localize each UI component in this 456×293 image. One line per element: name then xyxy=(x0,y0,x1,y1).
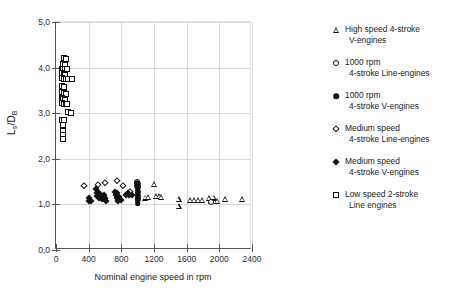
data-point xyxy=(97,192,104,199)
data-point xyxy=(135,187,141,193)
legend-label-line2: 4-stroke Line-engines xyxy=(345,68,456,79)
legend-entry[interactable]: Medium speed4-stroke V-engines xyxy=(332,156,456,177)
legend-entry[interactable]: Low speed 2-strokeLine engines xyxy=(332,189,456,210)
data-point xyxy=(60,96,66,102)
y-tick-mark xyxy=(52,68,60,69)
data-point xyxy=(60,132,66,138)
data-point xyxy=(123,191,130,198)
x-tick-mark xyxy=(121,244,122,252)
legend-label-line2: V-engines xyxy=(345,35,456,46)
data-point xyxy=(95,181,103,189)
legend-entry[interactable]: Medium speed4-stroke Line-engines xyxy=(332,123,456,144)
x-tick-label: 1200 xyxy=(145,254,164,264)
data-point xyxy=(211,195,217,201)
data-point xyxy=(61,71,67,77)
x-tick-mark xyxy=(219,244,220,252)
x-tick-label: 0 xyxy=(54,254,59,264)
data-point xyxy=(113,177,121,185)
y-axis-title: Ls/DB xyxy=(6,110,17,135)
data-point xyxy=(126,188,134,196)
legend-label-line1: Low speed 2-stroke xyxy=(345,189,418,199)
data-point xyxy=(59,83,65,89)
data-point xyxy=(93,189,100,196)
x-tick-label: 2400 xyxy=(243,254,262,264)
data-point xyxy=(191,197,197,203)
legend-label-line1: High speed 4-stroke xyxy=(345,24,420,34)
data-point xyxy=(135,181,141,187)
y-tick-mark xyxy=(52,159,60,160)
data-point xyxy=(60,122,66,128)
x-tick-mark xyxy=(187,244,188,252)
data-point xyxy=(59,70,65,76)
data-point xyxy=(208,198,214,204)
data-point xyxy=(101,194,108,201)
data-point xyxy=(69,76,75,82)
data-point xyxy=(158,194,164,200)
data-point xyxy=(206,195,212,201)
legend-label-line1: Medium speed xyxy=(345,156,400,166)
x-tick-label: 800 xyxy=(114,254,128,264)
legend-label-line2: Line engines xyxy=(345,200,456,211)
gridline-horizontal xyxy=(56,204,250,205)
circle-open-icon xyxy=(332,59,342,68)
data-point xyxy=(61,117,67,123)
y-tick-mark xyxy=(52,113,60,114)
y-tick-label: 0,0 xyxy=(38,245,50,255)
legend-entry[interactable]: High speed 4-strokeV-engines xyxy=(332,24,456,45)
data-point xyxy=(135,193,141,199)
data-point xyxy=(135,196,141,202)
data-point xyxy=(135,184,141,190)
x-tick-mark xyxy=(252,244,253,252)
data-point xyxy=(101,179,109,187)
data-point xyxy=(135,195,141,201)
data-point xyxy=(135,190,141,196)
gridline-vertical xyxy=(121,22,122,248)
data-point xyxy=(156,193,162,199)
legend-entry[interactable]: 1000 rpm4-stroke Line-engines xyxy=(332,57,456,78)
diamond-open-icon xyxy=(332,125,342,134)
data-point xyxy=(59,75,65,81)
gridline-vertical xyxy=(154,22,155,248)
data-point xyxy=(94,192,101,199)
x-tick-label: 400 xyxy=(82,254,96,264)
x-axis-title: Nominal engine speed in rpm xyxy=(55,272,251,282)
data-point xyxy=(65,76,71,82)
data-point xyxy=(142,195,148,201)
gridline-horizontal xyxy=(56,113,250,114)
gridline-vertical xyxy=(219,22,220,248)
legend: High speed 4-strokeV-engines1000 rpm4-st… xyxy=(332,24,456,222)
data-point xyxy=(113,189,120,196)
gridline-vertical xyxy=(89,22,90,248)
data-point xyxy=(98,195,105,202)
y-tick-label: 1,0 xyxy=(38,199,50,209)
x-tick-label: 1600 xyxy=(177,254,196,264)
y-axis-title-mid: /D xyxy=(6,115,17,125)
data-point xyxy=(62,72,68,78)
diamond-filled-icon xyxy=(332,158,342,167)
plot-area: Ls/DB 0,01,02,03,04,05,0 040080012001600… xyxy=(0,0,270,293)
data-point xyxy=(93,186,100,193)
data-point xyxy=(80,182,88,190)
legend-entry[interactable]: 1000 rpm4-stroke V-engines xyxy=(332,90,456,111)
triangle-open-icon xyxy=(332,26,342,35)
data-point xyxy=(134,183,140,189)
y-axis-title-sub2: B xyxy=(11,110,18,115)
y-tick-mark xyxy=(52,22,60,23)
x-tick-mark xyxy=(89,244,90,252)
y-tick-label: 5,0 xyxy=(38,17,50,27)
data-point xyxy=(124,190,131,197)
y-axis-title-sub1: s xyxy=(11,126,18,130)
data-point xyxy=(60,128,66,134)
data-point xyxy=(195,197,201,203)
data-point xyxy=(59,89,65,95)
data-point xyxy=(59,95,65,101)
y-tick-mark xyxy=(52,204,60,205)
gridline-vertical xyxy=(187,22,188,248)
data-point xyxy=(187,197,193,203)
data-point xyxy=(145,194,151,200)
data-point xyxy=(63,56,69,62)
legend-label-line2: 4-stroke V-engines xyxy=(345,167,456,178)
data-point xyxy=(62,97,68,103)
data-point xyxy=(61,90,67,96)
square-open-icon xyxy=(332,191,342,200)
